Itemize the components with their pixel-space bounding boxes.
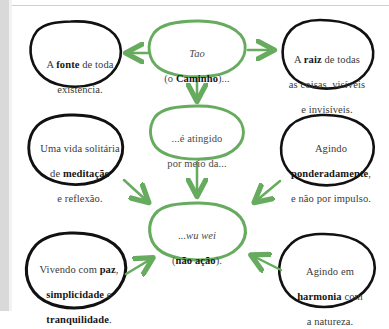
node-label-meditacao: Uma vida solitária de meditação e reflex… [22,130,138,206]
node-paz-line3-suffix: . [109,314,112,325]
node-meditacao-line2-prefix: de [50,168,63,179]
node-label-atingido: ...é atingido por meio da... [147,120,247,170]
node-label-ponderadamente: Agindo ponderadamente, e não por impulso… [272,130,389,206]
node-tao-line2-bold: Caminho [176,73,218,84]
node-harmonia-line3: a natureza. [307,316,354,327]
node-label-tao: Tao (o Caminho)... [147,35,247,85]
node-ponderadamente-line3: e não por impulso. [291,193,371,204]
node-fonte-line1-suffix: de toda [80,59,114,70]
node-paz-line1-prefix: Vivendo com [40,264,100,275]
node-wuwei-line1-prefix: ... [178,230,186,241]
node-label-paz: Vivendo com paz, simplicidade e tranquil… [20,251,138,327]
node-raiz-line1-bold: raiz [304,54,322,65]
node-fonte-line1-prefix: A [46,59,56,70]
node-paz-line1-suffix: , [116,264,119,275]
node-paz-line2-suffix: e [104,289,112,300]
node-label-fonte: A fonte de toda existência. [24,46,136,96]
node-ponderadamente-line2-suffix: , [368,168,371,179]
node-ponderadamente-line1: Agindo [315,143,347,154]
node-harmonia-line2-bold: harmonia [297,291,342,302]
node-tao-line2-prefix: (o [164,73,176,84]
node-paz-line2-bold: simplicidade [46,289,104,300]
node-label-wuwei: ...wu wei (não ação). [147,217,247,267]
node-tao-line1: Tao [189,48,205,59]
node-tao-line2-suffix: )... [218,73,230,84]
node-meditacao-line3: e reflexão. [57,193,102,204]
node-atingido-line2: por meio da... [167,158,226,169]
node-raiz-line3: e invisíveis. [301,104,352,115]
node-fonte-line1-bold: fonte [56,59,79,70]
node-label-raiz: A raiz de todas as coisas, visíveis e in… [273,41,381,117]
node-meditacao-line2-bold: meditação [63,168,110,179]
node-label-harmonia: Agindo em harmonia com a natureza. [272,253,388,329]
node-fonte-line2: existência. [57,84,103,95]
node-atingido-line1: ...é atingido [172,133,223,144]
node-wuwei-line1-italic: wu wei [186,230,216,241]
node-harmonia-line2-suffix: com [342,291,363,302]
node-wuwei-line2-bold: não ação [176,255,216,266]
node-ponderadamente-line2-bold: ponderadamente [291,168,368,179]
diagram-canvas: Tao (o Caminho)... A fonte de toda exist… [0,0,389,329]
node-wuwei-line2-suffix: ). [216,255,222,266]
node-raiz-line2: as coisas, visíveis [289,79,365,90]
node-harmonia-line1: Agindo em [306,266,354,277]
node-paz-line1-bold: paz [100,264,116,275]
node-raiz-line1-prefix: A [294,54,304,65]
node-raiz-line1-suffix: de todas [322,54,360,65]
node-paz-line3-bold: tranquilidade [46,314,109,325]
node-meditacao-line1: Uma vida solitária [40,143,119,154]
